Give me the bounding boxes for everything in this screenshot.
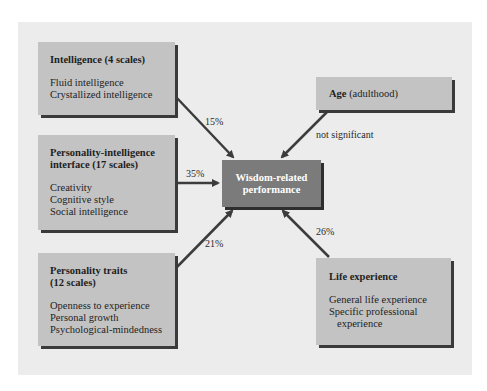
box-item: Fluid intelligence xyxy=(50,77,163,89)
box-title: Age (adulthood) xyxy=(329,88,440,100)
effect-label-intelligence: 15% xyxy=(205,116,223,127)
box-item: Openness to experience xyxy=(50,300,163,312)
box-personality-intelligence-interface: Personality-intelligence interface (17 s… xyxy=(38,135,175,230)
effect-label-personality-intelligence: 35% xyxy=(186,168,204,179)
effect-label-age: not significant xyxy=(316,129,374,140)
box-personality-traits: Personality traits (12 scales) Openness … xyxy=(38,253,175,346)
box-title-line1: Personality traits xyxy=(50,265,163,277)
box-item: General life experience xyxy=(329,294,439,306)
box-title: Intelligence (4 scales) xyxy=(50,54,163,66)
box-title-normal: (adulthood) xyxy=(347,88,399,99)
box-age: Age (adulthood) xyxy=(316,77,452,110)
box-item: Crystallized intelligence xyxy=(50,89,163,101)
box-item: Creativity xyxy=(50,182,163,194)
box-items: Creativity Cognitive style Social intell… xyxy=(50,182,163,218)
box-title: Life experience xyxy=(329,271,439,283)
box-title-line1: Personality-intelligence xyxy=(50,147,163,159)
effect-label-life-experience: 26% xyxy=(316,226,334,237)
box-items: General life experience Specific profess… xyxy=(329,294,439,330)
arrow-personality-traits xyxy=(176,211,232,268)
box-item: Specific professional xyxy=(329,306,439,318)
box-item: experience xyxy=(329,318,439,330)
box-wisdom-related-performance: Wisdom-related performance xyxy=(222,160,321,207)
box-life-experience: Life experience General life experience … xyxy=(316,258,451,345)
center-title-line2: performance xyxy=(236,184,308,196)
box-title-line2: interface (17 scales) xyxy=(50,159,163,171)
box-item: Personal growth xyxy=(50,312,163,324)
box-intelligence: Intelligence (4 scales) Fluid intelligen… xyxy=(38,42,175,115)
box-title-line2: (12 scales) xyxy=(50,277,163,289)
box-items: Fluid intelligence Crystallized intellig… xyxy=(50,77,163,101)
center-title-line1: Wisdom-related xyxy=(236,172,308,184)
box-item: Psychological-mindedness xyxy=(50,324,163,336)
effect-label-personality-traits: 21% xyxy=(205,238,223,249)
box-items: Openness to experience Personal growth P… xyxy=(50,300,163,336)
box-item: Social intelligence xyxy=(50,206,163,218)
box-title-bold: Age xyxy=(329,88,347,99)
arrow-intelligence xyxy=(176,97,233,157)
box-item: Cognitive style xyxy=(50,194,163,206)
